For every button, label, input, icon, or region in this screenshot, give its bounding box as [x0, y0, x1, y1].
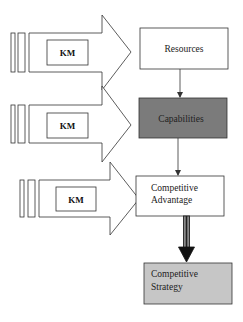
arrow-head [179, 247, 195, 262]
arrow-tail-bar [20, 180, 24, 217]
arrow-tail-bar [11, 105, 15, 143]
capabilities-label: Capabilities [158, 114, 204, 124]
resources-label: Resources [164, 44, 203, 54]
competitive-strategy-label-line2: Strategy [151, 282, 183, 292]
thick-connector-advantage-strategy [179, 216, 195, 262]
competitive-advantage-label-line2: Advantage [151, 195, 192, 205]
km-arrow-3: KM [20, 162, 139, 235]
km-label: KM [60, 121, 76, 131]
capabilities-box: Capabilities [139, 98, 227, 138]
arrow-tail-bar [28, 180, 35, 217]
competitive-strategy-box: Competitive Strategy [144, 263, 232, 304]
competitive-advantage-box: Competitive Advantage [136, 176, 224, 216]
competitive-advantage-label-line1: Competitive [151, 183, 198, 193]
km-arrow-2: KM [11, 86, 131, 162]
km-diagram: KM KM KM Resources Capabilities Competit… [0, 0, 243, 322]
resources-box: Resources [140, 28, 228, 69]
arrow-tail-bar [11, 33, 15, 72]
competitive-strategy-label-line1: Competitive [151, 269, 198, 279]
km-label: KM [68, 195, 84, 205]
km-arrow-1: KM [11, 15, 131, 90]
arrow-tail-bar [18, 105, 25, 143]
arrow-tail-bar [18, 33, 25, 72]
km-label: KM [60, 48, 76, 58]
